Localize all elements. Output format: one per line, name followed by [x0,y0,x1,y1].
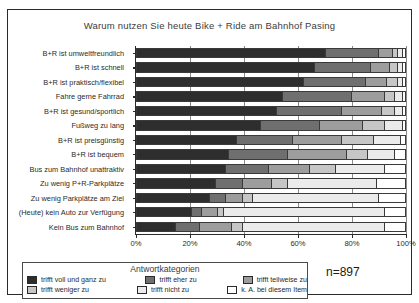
y-axis-label: B+R ist schnell [0,63,124,72]
bar-segment [367,150,394,158]
y-axis-tick [133,53,136,54]
legend-label: trifft eher zu [159,276,196,284]
bar-segment [341,107,381,115]
bar-segment [137,63,314,71]
y-axis-tick [133,125,136,126]
legend-item[interactable]: trifft weniger zu [27,286,137,295]
bar-row [136,120,406,130]
bar-segment [137,107,276,115]
y-axis-tick [133,227,136,228]
bar-segment [191,208,202,216]
bar-segment [225,165,268,173]
legend-row: trifft voll und ganz zutrifft eher zutri… [23,276,307,285]
x-axis-label: 40% [236,239,251,248]
bar-segment [292,136,340,144]
bar-segment [137,208,191,216]
bar-segment [236,136,292,144]
bar-segment [242,179,271,187]
x-axis-label: 0% [131,239,142,248]
legend-swatch [243,276,253,285]
legend-item[interactable]: trifft nicht zu [137,286,227,295]
stacked-bar[interactable] [136,135,406,145]
bar-segment [137,223,175,231]
bar-segment [341,136,373,144]
x-axis-label: 60% [290,239,305,248]
stacked-bar[interactable] [136,178,406,188]
y-axis-tick [133,67,136,68]
y-axis-label: Fahre gerne Fahrrad [0,92,124,101]
bar-segment [384,92,395,100]
bar-row [136,91,406,101]
legend-item[interactable]: trifft teilweise zu [243,276,307,285]
y-axis-label: Zu wenig Parkplätze am Ziel [0,194,124,203]
bar-segment [402,92,405,100]
bar-segment [346,150,367,158]
bar-segment [252,194,378,202]
legend-label: trifft voll und ganz zu [41,276,106,284]
stacked-bar[interactable] [136,120,406,130]
legend-swatch [27,286,37,295]
stacked-bar[interactable] [136,77,406,87]
bar-segment [402,63,405,71]
bar-segment [402,49,405,57]
sample-size-label: n=897 [326,265,360,279]
y-axis-tick [133,96,136,97]
bar-segment [394,107,402,115]
bar-segment [242,223,384,231]
y-axis-tick [133,169,136,170]
y-axis-label: (Heute) kein Auto zur Verfügung [0,208,124,217]
legend-label: trifft teilweise zu [257,276,307,284]
stacked-bar[interactable] [136,106,406,116]
x-axis-label: 80% [344,239,359,248]
y-axis-label: Kein Bus zum Bahnhof [0,223,124,232]
x-axis-tick [244,234,245,238]
legend-item[interactable]: k. A. bei diesem Item [227,286,307,295]
stacked-bar[interactable] [136,62,406,72]
bar-segment [137,136,236,144]
legend-item[interactable]: trifft voll und ganz zu [27,276,145,285]
bar-segment [319,121,362,129]
bar-segment [335,165,383,173]
bar-segment [394,150,405,158]
stacked-bar[interactable] [136,222,406,232]
gridline [406,46,407,234]
bar-segment [381,107,394,115]
bar-segment [137,78,303,86]
bar-segment [201,208,217,216]
bar-segment [362,121,383,129]
bar-segment [137,150,228,158]
bar-segment [175,223,199,231]
bar-segment [215,179,242,187]
bar-row [136,178,406,188]
bar-row [136,62,406,72]
y-axis-tick [133,154,136,155]
y-axis-label: Fußweg zu lang [0,121,124,130]
plot-area: B+R ist umweltfreundlichB+R ist schnellB… [135,46,406,235]
y-axis-label: B+R ist gesund/sportlich [0,107,124,116]
stacked-bar[interactable] [136,48,406,58]
bar-segment [309,165,336,173]
bar-segment [400,136,405,144]
bar-segment [137,194,209,202]
bar-segment [325,49,379,57]
stacked-bar[interactable] [136,207,406,217]
stacked-bar[interactable] [136,193,406,203]
y-axis-label: B+R ist bequem [0,150,124,159]
y-axis-label: B+R ist umweltfreundlich [0,49,124,58]
legend-item[interactable]: trifft eher zu [145,276,242,285]
legend-row: trifft weniger zutrifft nicht zuk. A. be… [23,286,307,295]
bar-segment [402,107,405,115]
y-axis-label: B+R ist praktisch/flexibel [0,78,124,87]
bar-segment [314,63,370,71]
bar-segment [209,194,225,202]
y-axis-tick [133,198,136,199]
bar-segment [287,150,346,158]
x-axis-tick [406,234,407,238]
stacked-bar[interactable] [136,164,406,174]
bar-segment [378,194,405,202]
stacked-bar[interactable] [136,91,406,101]
bar-row [136,164,406,174]
y-axis-tick [133,183,136,184]
stacked-bar[interactable] [136,149,406,159]
bar-segment [260,121,319,129]
